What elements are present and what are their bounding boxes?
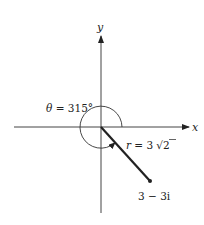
modulus-coefficient: 3 (147, 139, 154, 151)
x-axis-label: x (192, 121, 199, 134)
point-label: 3 − 3i (138, 190, 171, 202)
angle-value: 315° (68, 102, 93, 114)
angle-equals: = (52, 102, 67, 114)
angle-label: θ = 315° (46, 102, 93, 114)
modulus-segment (101, 127, 150, 181)
modulus-label: r = 3√2 (126, 139, 170, 151)
complex-plane-diagram: x y θ = 315° r = 3√2 3 − 3i (0, 0, 204, 225)
radicand: 2 (163, 139, 170, 151)
point-marker (148, 179, 152, 183)
y-axis-label: y (96, 21, 104, 34)
modulus-equals: = (131, 139, 146, 151)
